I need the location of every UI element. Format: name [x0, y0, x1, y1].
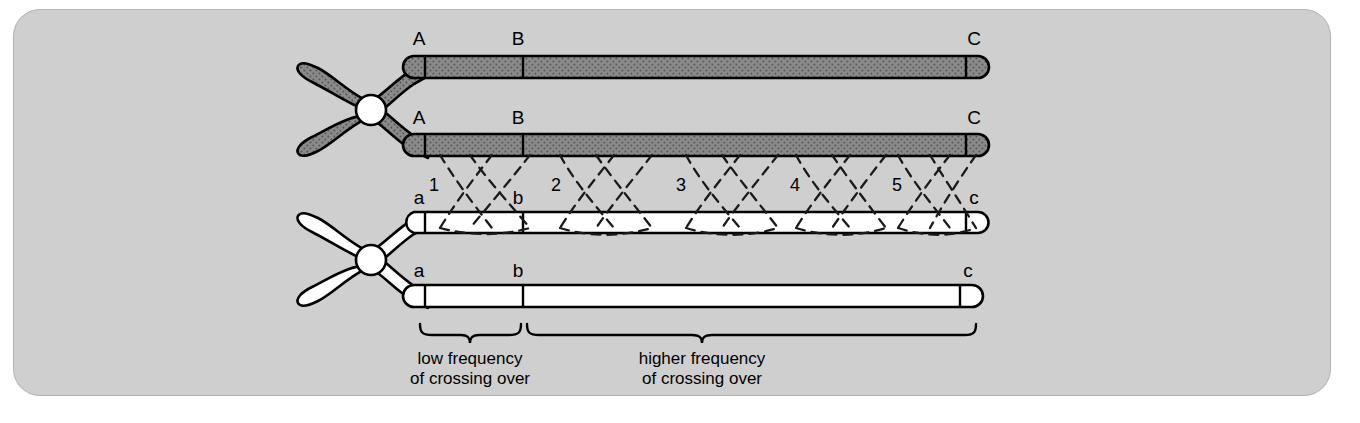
brace-higher-frequency-path: [527, 324, 976, 343]
brace-low-frequency-path: [420, 324, 521, 343]
gene-label-c-2: c: [963, 260, 973, 281]
crossover-number-4: 4: [790, 175, 800, 195]
chromatid-dark-2: [403, 134, 989, 156]
gene-label-B-1: B: [512, 28, 525, 49]
gene-label-A-1: A: [413, 28, 426, 49]
crossover-number-3: 3: [676, 175, 686, 195]
centromere-dark: [356, 95, 386, 125]
crossover-number-5: 5: [892, 175, 902, 195]
figure-stage: A B C A B C a b c a b c 1 2 3 4 5 low fr…: [0, 0, 1360, 423]
gene-label-b-1: b: [513, 187, 524, 208]
crossover-number-1: 1: [429, 175, 439, 195]
chromatid-light-2: [403, 285, 983, 307]
gene-label-b-2: b: [513, 260, 524, 281]
caption-higher-frequency-line1: higher frequency: [639, 349, 766, 368]
centromere-light: [356, 245, 386, 275]
chromatid-dark-1: [403, 56, 989, 78]
gene-label-a-2: a: [414, 260, 425, 281]
gene-label-C-1: C: [967, 28, 981, 49]
gene-label-B-2: B: [512, 107, 525, 128]
caption-low-frequency-line2: of crossing over: [410, 369, 530, 388]
gene-label-A-2: A: [413, 107, 426, 128]
caption-low-frequency-line1: low frequency: [418, 349, 523, 368]
crossover-number-2: 2: [551, 175, 561, 195]
gene-label-c-1: c: [969, 187, 979, 208]
chromosome-crossing-over-diagram: A B C A B C a b c a b c 1 2 3 4 5 low fr…: [0, 0, 1360, 423]
gene-label-a-1: a: [414, 187, 425, 208]
gene-label-C-2: C: [967, 107, 981, 128]
caption-higher-frequency-line2: of crossing over: [642, 369, 762, 388]
